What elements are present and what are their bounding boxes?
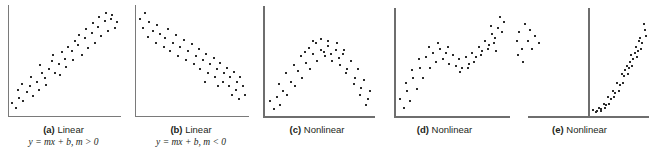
data-point [64, 58, 66, 60]
data-point [365, 104, 367, 106]
data-point [308, 47, 310, 49]
data-point [71, 50, 73, 52]
data-point [637, 50, 639, 52]
data-point [51, 60, 53, 62]
data-point [638, 40, 640, 42]
data-point [435, 61, 437, 63]
panel-a-caption-line: (a) Linear [0, 124, 127, 136]
data-point [111, 14, 113, 16]
data-point [419, 67, 421, 69]
data-point [26, 91, 28, 93]
scatterplot-figure: (a) Linear y = mx + b, m > 0 (b) Linear … [0, 0, 649, 153]
data-point [527, 40, 529, 42]
data-point [631, 65, 633, 67]
panel-c-caption: (c) Nonlinear [255, 124, 379, 136]
data-point [501, 31, 503, 33]
data-point [78, 34, 80, 36]
data-point [622, 82, 624, 84]
data-point [491, 33, 493, 35]
panel-b-letter: (b) [170, 124, 182, 135]
panel-e-points [589, 8, 649, 116]
data-point [345, 72, 347, 74]
panel-b-caption: (b) Linear y = mx + b, m < 0 [127, 124, 255, 148]
data-point [156, 24, 158, 26]
data-point [198, 48, 200, 50]
panel-b-title: Linear [185, 124, 211, 135]
data-point [290, 81, 292, 83]
panel-d-caption-line: (d) Nonlinear [379, 124, 510, 136]
panel-b: (b) Linear y = mx + b, m < 0 [127, 0, 255, 153]
data-point [97, 26, 99, 28]
panel-a-x-axis [8, 116, 121, 117]
panel-e-plot [510, 0, 649, 120]
data-point [207, 72, 209, 74]
data-point [21, 83, 23, 85]
data-point [104, 20, 106, 22]
data-point [458, 58, 460, 60]
data-point [91, 32, 93, 34]
data-point [44, 77, 46, 79]
panel-a: (a) Linear y = mx + b, m > 0 [0, 0, 127, 153]
data-point [418, 58, 420, 60]
panel-a-equation: y = mx + b, m > 0 [0, 136, 127, 148]
data-point [217, 85, 219, 87]
data-point [327, 40, 329, 42]
data-point [618, 90, 620, 92]
data-point [461, 67, 463, 69]
data-point [517, 54, 519, 56]
data-point [644, 29, 646, 31]
data-point [309, 68, 311, 70]
data-point [411, 69, 413, 71]
panel-c: (c) Nonlinear [255, 0, 379, 153]
data-point [152, 30, 154, 32]
panel-c-letter: (c) [290, 124, 302, 135]
data-point [343, 49, 345, 51]
panel-d-x-axis [394, 116, 510, 118]
data-point [36, 81, 38, 83]
data-point [531, 48, 533, 50]
data-point [448, 63, 450, 65]
data-point [516, 40, 518, 42]
data-point [439, 48, 441, 50]
data-point [216, 68, 218, 70]
data-point [65, 66, 67, 68]
data-point [534, 35, 536, 37]
data-point [481, 50, 483, 52]
data-point [447, 46, 449, 48]
data-point [228, 85, 230, 87]
panel-e-left-cluster [510, 8, 582, 116]
data-point [242, 85, 244, 87]
data-point [619, 84, 621, 86]
data-point [159, 33, 161, 35]
data-point [425, 56, 427, 58]
data-point [640, 48, 642, 50]
data-point [92, 22, 94, 24]
data-point [279, 104, 281, 106]
data-point [238, 98, 240, 100]
data-point [110, 18, 112, 20]
data-point [614, 92, 616, 94]
data-point [432, 52, 434, 54]
panel-c-x-axis [263, 116, 375, 118]
panel-d-caption: (d) Nonlinear [379, 124, 510, 136]
data-point [399, 98, 401, 100]
data-point [214, 76, 216, 78]
data-point [213, 57, 215, 59]
panel-a-plot [0, 0, 127, 120]
data-point [613, 96, 615, 98]
data-point [363, 79, 365, 81]
data-point [172, 42, 174, 44]
data-point [354, 77, 356, 79]
data-point [231, 94, 233, 96]
data-point [233, 71, 235, 73]
data-point [187, 50, 189, 52]
panel-d-points [396, 8, 508, 116]
data-point [475, 56, 477, 58]
data-point [285, 72, 287, 74]
data-point [164, 37, 166, 39]
data-point [359, 94, 361, 96]
data-point [429, 67, 431, 69]
data-point [202, 59, 204, 61]
data-point [282, 90, 284, 92]
data-point [487, 48, 489, 50]
